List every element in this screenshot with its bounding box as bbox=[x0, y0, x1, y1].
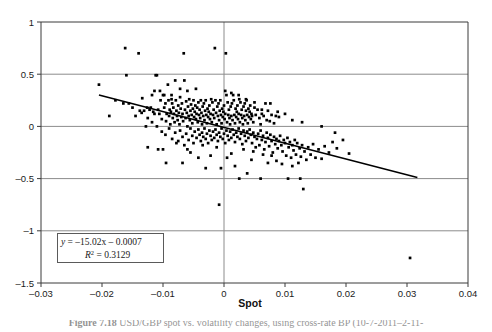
y-tick-label: –0.5 bbox=[16, 173, 35, 184]
regression-equation-box: y = –15.02x – 0.0007 R2 = 0.3129 bbox=[58, 234, 164, 263]
data-point bbox=[199, 140, 202, 143]
data-point bbox=[269, 102, 272, 105]
data-point bbox=[171, 138, 174, 141]
x-tick-label: 0 bbox=[221, 288, 226, 299]
data-point bbox=[254, 114, 257, 117]
data-point bbox=[168, 127, 171, 130]
data-point bbox=[328, 151, 331, 154]
data-point bbox=[342, 139, 345, 142]
data-point bbox=[191, 134, 194, 137]
data-point bbox=[198, 114, 201, 117]
data-point bbox=[234, 122, 237, 125]
data-point bbox=[189, 109, 192, 112]
data-point bbox=[179, 87, 182, 90]
data-point bbox=[246, 122, 249, 125]
data-point bbox=[273, 135, 276, 138]
data-point bbox=[187, 115, 190, 118]
data-point bbox=[212, 108, 215, 111]
data-point bbox=[186, 148, 189, 151]
data-point bbox=[284, 113, 287, 116]
data-point bbox=[209, 118, 212, 121]
data-point bbox=[265, 131, 268, 134]
data-point bbox=[348, 152, 351, 155]
data-point bbox=[203, 102, 206, 105]
data-point bbox=[207, 142, 210, 145]
data-point bbox=[164, 102, 167, 105]
data-point bbox=[291, 119, 294, 122]
y-tick-label: –1 bbox=[23, 225, 34, 236]
data-point bbox=[134, 115, 137, 118]
data-point bbox=[270, 114, 273, 117]
data-point bbox=[171, 102, 174, 105]
data-point bbox=[188, 98, 191, 101]
data-point bbox=[219, 135, 222, 138]
data-point bbox=[181, 102, 184, 105]
data-point bbox=[235, 131, 238, 134]
data-point bbox=[215, 146, 218, 149]
data-point bbox=[256, 108, 259, 111]
data-point bbox=[167, 99, 170, 102]
data-point bbox=[197, 128, 200, 131]
data-point bbox=[225, 94, 228, 97]
data-point bbox=[204, 99, 207, 102]
data-point bbox=[275, 160, 278, 163]
data-point bbox=[317, 148, 320, 151]
data-point bbox=[206, 107, 209, 110]
data-point bbox=[224, 142, 227, 145]
data-point bbox=[223, 104, 226, 107]
data-point bbox=[252, 150, 255, 153]
data-point bbox=[225, 129, 228, 132]
data-point bbox=[226, 121, 229, 124]
data-point bbox=[224, 90, 227, 93]
data-point bbox=[208, 104, 211, 107]
data-point bbox=[269, 133, 272, 136]
data-point bbox=[186, 125, 189, 128]
x-tick-label: 0.01 bbox=[276, 288, 295, 299]
data-point bbox=[171, 117, 174, 120]
data-point bbox=[309, 153, 312, 156]
data-point bbox=[163, 94, 166, 97]
data-point bbox=[124, 47, 127, 50]
data-point bbox=[151, 94, 154, 97]
data-point bbox=[279, 134, 282, 137]
x-tick-label: –0.03 bbox=[29, 288, 53, 299]
data-point bbox=[223, 132, 226, 135]
data-point bbox=[263, 148, 266, 151]
data-point bbox=[302, 188, 305, 191]
data-point bbox=[218, 109, 221, 112]
data-point bbox=[260, 139, 263, 142]
data-point bbox=[320, 157, 323, 160]
data-point bbox=[209, 154, 212, 157]
data-point bbox=[226, 156, 229, 159]
data-point bbox=[237, 94, 240, 97]
data-point bbox=[237, 113, 240, 116]
data-point bbox=[268, 120, 271, 123]
data-point bbox=[185, 111, 188, 114]
data-point bbox=[217, 140, 220, 143]
data-point bbox=[163, 106, 166, 109]
data-point bbox=[182, 120, 185, 123]
data-point bbox=[140, 111, 143, 114]
data-point bbox=[156, 125, 159, 128]
data-point bbox=[137, 52, 140, 55]
data-point bbox=[241, 143, 244, 146]
data-point bbox=[212, 114, 215, 117]
data-point bbox=[179, 96, 182, 99]
data-point bbox=[192, 99, 195, 102]
data-point bbox=[231, 119, 234, 122]
data-point bbox=[271, 151, 274, 154]
data-point bbox=[314, 156, 317, 159]
caption-label: Figure 7.18 bbox=[69, 320, 117, 328]
data-point bbox=[218, 131, 221, 134]
data-point bbox=[229, 105, 232, 108]
data-point bbox=[209, 113, 212, 116]
data-point bbox=[215, 133, 218, 136]
data-point bbox=[210, 121, 213, 124]
data-point bbox=[187, 105, 190, 108]
data-point bbox=[228, 139, 231, 142]
data-point bbox=[256, 138, 259, 141]
data-point bbox=[178, 111, 181, 114]
data-point bbox=[174, 79, 177, 82]
data-point bbox=[181, 162, 184, 165]
data-point bbox=[159, 99, 162, 102]
